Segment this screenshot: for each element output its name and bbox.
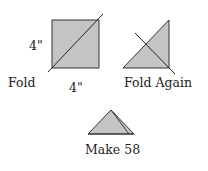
side-length-bottom-label: 4" <box>69 82 83 95</box>
fold-label: Fold <box>8 77 36 90</box>
square-shape <box>48 14 103 72</box>
side-length-left-label: 4" <box>29 40 43 53</box>
make-count-label: Make 58 <box>85 144 140 157</box>
fold-again-label: Fold Again <box>124 77 192 90</box>
triangle-shape <box>123 20 175 74</box>
small-triangle-shape <box>88 110 134 134</box>
